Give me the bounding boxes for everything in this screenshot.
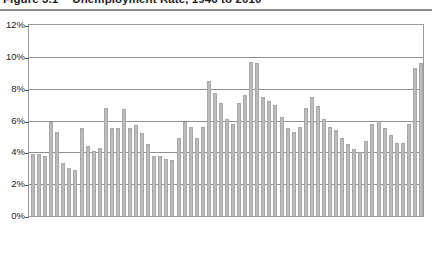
bar <box>67 168 71 216</box>
bar <box>364 141 368 216</box>
page-title: Figure 3.1Unemployment Rate, 1946 to 201… <box>3 0 261 5</box>
unemployment-rate-chart: Figure 3.1Unemployment Rate, 1946 to 201… <box>0 0 432 270</box>
bar <box>370 124 374 216</box>
bar <box>298 127 302 216</box>
bar <box>128 128 132 216</box>
bar <box>31 154 35 216</box>
bar <box>407 124 411 216</box>
bar <box>413 68 417 216</box>
figure-title-text: Unemployment Rate, 1946 to 2010 <box>72 0 261 5</box>
bar <box>140 133 144 216</box>
bar <box>152 156 156 216</box>
bar <box>273 105 277 216</box>
bar <box>261 97 265 216</box>
y-axis-labels: 0%2%4%6%8%10%12% <box>0 24 25 217</box>
bar <box>164 159 168 216</box>
bar <box>304 108 308 216</box>
bar <box>225 119 229 216</box>
bar <box>249 62 253 216</box>
bar <box>110 128 114 216</box>
y-axis-tick-label: 2% <box>0 179 25 189</box>
bar <box>49 122 53 216</box>
bar <box>328 127 332 216</box>
bar <box>92 151 96 216</box>
y-axis-tick-label: 12% <box>0 20 25 30</box>
bar <box>322 119 326 216</box>
bar <box>231 124 235 216</box>
bar <box>61 163 65 216</box>
bar <box>37 154 41 216</box>
bar <box>183 122 187 216</box>
bar <box>195 138 199 216</box>
bar <box>358 152 362 216</box>
bar <box>80 128 84 216</box>
y-axis-tick-label: 4% <box>0 148 25 158</box>
bar <box>98 148 102 216</box>
bar <box>310 97 314 216</box>
bar <box>43 156 47 216</box>
bar <box>170 160 174 216</box>
bar <box>134 125 138 216</box>
chart-title-strip: Figure 3.1Unemployment Rate, 1946 to 201… <box>0 0 432 9</box>
bar <box>340 138 344 216</box>
bar <box>377 121 381 217</box>
bar <box>55 132 59 216</box>
plot-area <box>28 24 424 217</box>
x-axis-labels <box>28 219 424 270</box>
bar <box>267 101 271 216</box>
bar <box>86 146 90 216</box>
bar <box>177 138 181 216</box>
bar <box>237 103 241 216</box>
bar <box>158 156 162 216</box>
bar <box>213 93 217 216</box>
y-axis-tick <box>25 217 29 218</box>
bar <box>201 127 205 216</box>
bar <box>219 103 223 216</box>
bar <box>292 132 296 216</box>
bar <box>255 63 259 216</box>
bar <box>346 144 350 216</box>
bar <box>286 128 290 216</box>
bar <box>395 143 399 216</box>
bar <box>146 144 150 216</box>
bar <box>383 128 387 216</box>
bar <box>352 149 356 216</box>
bar <box>280 117 284 216</box>
bar <box>401 143 405 216</box>
y-axis-tick-label: 6% <box>0 116 25 126</box>
bar <box>73 170 77 216</box>
bar <box>419 63 423 216</box>
bar-series <box>29 25 423 216</box>
bar <box>316 106 320 216</box>
bar <box>334 130 338 216</box>
title-divider <box>0 9 432 11</box>
bar <box>243 95 247 216</box>
bar <box>122 109 126 216</box>
y-axis-tick-label: 0% <box>0 211 25 221</box>
y-axis-tick-label: 8% <box>0 84 25 94</box>
bar <box>207 81 211 216</box>
bar <box>389 135 393 216</box>
bar <box>104 108 108 216</box>
bar <box>116 128 120 216</box>
y-axis-tick-label: 10% <box>0 52 25 62</box>
figure-number: Figure 3.1 <box>3 0 58 5</box>
bar <box>189 127 193 216</box>
